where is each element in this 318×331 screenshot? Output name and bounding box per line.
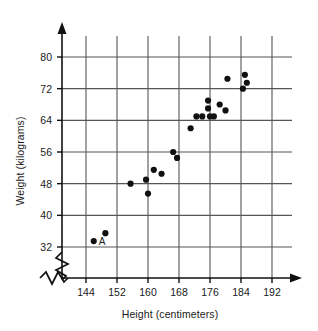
data-point	[224, 76, 230, 82]
y-axis-tick-labels: 32404856647280	[40, 51, 52, 253]
data-point	[244, 80, 250, 86]
y-axis-arrowhead	[58, 22, 67, 34]
data-point	[205, 105, 211, 111]
data-point	[91, 238, 97, 244]
data-point	[143, 177, 149, 183]
y-tick-label: 56	[40, 146, 52, 158]
data-point	[158, 171, 164, 177]
y-tick-label: 72	[40, 83, 52, 95]
y-tick-label: 40	[40, 209, 52, 221]
x-tick-label: 160	[139, 286, 157, 298]
data-point	[145, 190, 151, 196]
plot-canvas: 32404856647280 144152160168176184192 A	[0, 0, 318, 331]
data-point	[127, 181, 133, 187]
data-point	[193, 113, 199, 119]
y-tick-label: 64	[40, 114, 52, 126]
x-axis-tick-labels: 144152160168176184192	[77, 286, 281, 298]
data-point-label-group: A	[99, 236, 106, 247]
data-point-label: A	[99, 236, 106, 247]
x-tick-label: 144	[77, 286, 95, 298]
y-tick-label: 80	[40, 51, 52, 63]
y-tick-label: 48	[40, 178, 52, 190]
x-tick-label: 168	[170, 286, 188, 298]
data-point	[222, 107, 228, 113]
axis-break-marks	[40, 252, 68, 284]
data-point	[199, 113, 205, 119]
data-point	[188, 125, 194, 131]
data-point	[170, 149, 176, 155]
x-axis-title: Height (centimeters)	[60, 308, 280, 320]
data-point	[211, 113, 217, 119]
horizontal-gridlines	[62, 57, 292, 247]
data-point	[217, 101, 223, 107]
scatter-plot-figure: 32404856647280 144152160168176184192 A W…	[0, 0, 318, 331]
x-tick-label: 192	[263, 286, 281, 298]
y-axis-title: Weight (kilograms)	[14, 91, 26, 231]
data-point-group	[91, 72, 250, 244]
x-tick-label: 152	[108, 286, 126, 298]
data-point	[240, 86, 246, 92]
x-axis-arrowhead	[290, 274, 302, 283]
data-point	[242, 72, 248, 78]
x-tick-label: 176	[201, 286, 219, 298]
data-point	[151, 167, 157, 173]
x-tick-label: 184	[232, 286, 250, 298]
data-point	[205, 97, 211, 103]
y-tick-label: 32	[40, 241, 52, 253]
data-point	[174, 155, 180, 161]
